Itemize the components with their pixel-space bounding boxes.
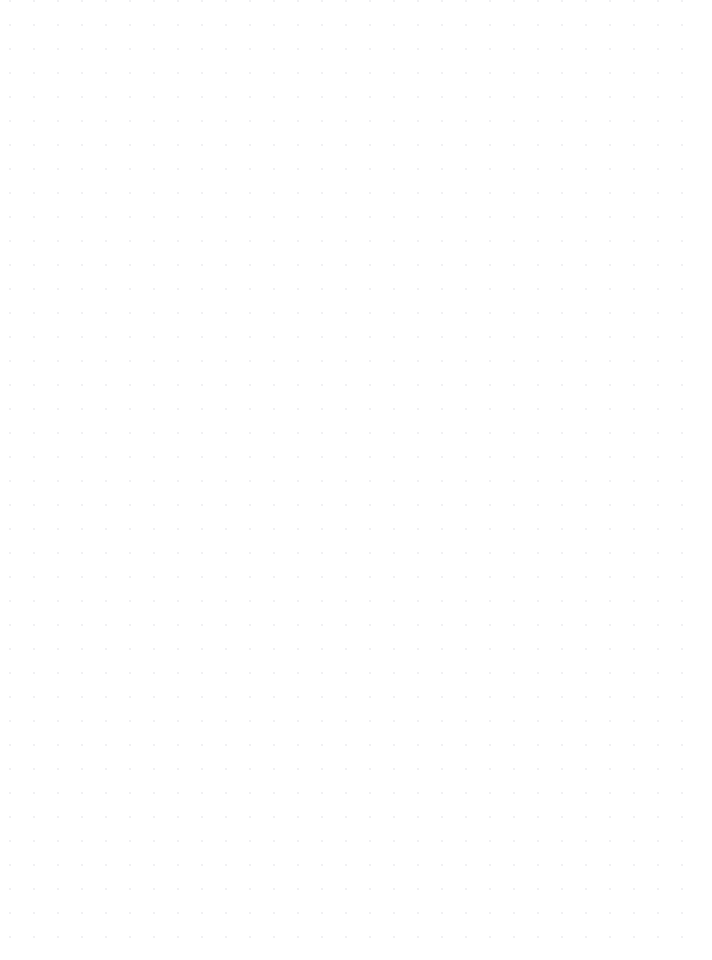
dot-grid-pattern: [0, 0, 712, 960]
dot-grid-canvas[interactable]: [0, 0, 712, 960]
